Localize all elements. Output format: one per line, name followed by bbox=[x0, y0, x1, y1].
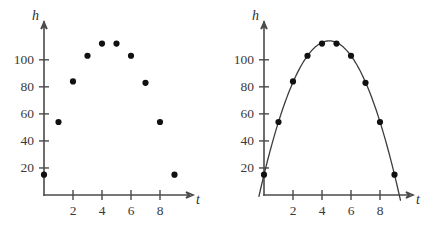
y-tick-label: 60 bbox=[241, 106, 255, 121]
data-point bbox=[377, 119, 383, 125]
x-tick-label: 6 bbox=[128, 203, 135, 218]
x-tick-label: 2 bbox=[290, 203, 297, 218]
x-axis-left bbox=[44, 192, 193, 198]
data-point bbox=[157, 119, 163, 125]
scatter-plot-right: 20406080100 2468 h t bbox=[220, 0, 440, 229]
data-point bbox=[55, 119, 61, 125]
data-point bbox=[362, 80, 368, 86]
x-tick-label: 4 bbox=[319, 203, 326, 218]
x-axis-label: t bbox=[196, 192, 201, 207]
x-axis-right bbox=[264, 192, 413, 198]
data-point bbox=[99, 40, 105, 46]
y-tick-label: 100 bbox=[14, 52, 35, 67]
two-panel-figure: 20406080100 2468 h t 20406080100 2468 h … bbox=[0, 0, 441, 229]
data-point bbox=[275, 119, 281, 125]
data-point bbox=[333, 40, 339, 46]
y-axis-label: h bbox=[32, 8, 39, 23]
y-tick-label: 80 bbox=[21, 79, 35, 94]
data-point bbox=[319, 40, 325, 46]
x-tick-label: 8 bbox=[157, 203, 164, 218]
x-tick-label: 6 bbox=[348, 203, 355, 218]
y-tick-label: 20 bbox=[241, 160, 255, 175]
y-tick-label: 40 bbox=[241, 133, 255, 148]
x-tick-label: 2 bbox=[70, 203, 77, 218]
scatter-plot-left: 20406080100 2468 h t bbox=[0, 0, 220, 229]
panel-scatter-only: 20406080100 2468 h t bbox=[0, 0, 220, 229]
data-point bbox=[84, 53, 90, 59]
data-point bbox=[41, 172, 47, 178]
data-point bbox=[290, 78, 296, 84]
data-point bbox=[348, 53, 354, 59]
y-tick-label: 100 bbox=[234, 52, 255, 67]
panel-scatter-with-curve: 20406080100 2468 h t bbox=[220, 0, 440, 229]
data-point bbox=[304, 53, 310, 59]
y-axis-right bbox=[261, 22, 267, 195]
data-point bbox=[70, 78, 76, 84]
y-axis-label: h bbox=[252, 8, 259, 23]
y-tick-label: 80 bbox=[241, 79, 255, 94]
data-point bbox=[128, 53, 134, 59]
data-point bbox=[171, 172, 177, 178]
data-point bbox=[261, 172, 267, 178]
x-axis-label: t bbox=[416, 192, 421, 207]
data-point-group-left bbox=[41, 40, 178, 177]
data-point bbox=[391, 172, 397, 178]
data-point-group-right bbox=[261, 40, 398, 177]
x-tick-label: 8 bbox=[377, 203, 384, 218]
y-tick-label: 60 bbox=[21, 106, 35, 121]
data-point bbox=[142, 80, 148, 86]
y-axis-left bbox=[41, 22, 47, 195]
x-tick-label: 4 bbox=[99, 203, 106, 218]
y-tick-label: 40 bbox=[21, 133, 35, 148]
y-tick-label: 20 bbox=[21, 160, 35, 175]
data-point bbox=[113, 40, 119, 46]
